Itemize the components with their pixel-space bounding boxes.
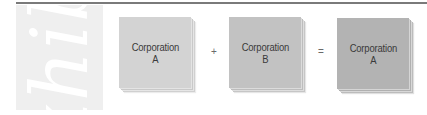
box-label-line2: A <box>131 53 178 65</box>
box-label: Corporation B <box>241 41 288 65</box>
box-label-line1: Corporation <box>241 41 288 53</box>
side-watermark-strip: Exhibit <box>16 5 103 110</box>
equals-operator: = <box>315 46 327 58</box>
exhibit-watermark-text: Exhibit <box>21 5 99 110</box>
box-label-line2: A <box>349 54 396 66</box>
box-label: Corporation A <box>349 42 396 66</box>
result-corporation-a-box: Corporation A <box>337 18 409 89</box>
corporation-b-box: Corporation B <box>229 17 301 88</box>
plus-operator: + <box>208 46 220 58</box>
box-label-line1: Corporation <box>131 41 178 53</box>
top-rule-divider <box>16 2 427 4</box>
box-label-line2: B <box>241 53 288 65</box>
box-label-line1: Corporation <box>349 42 396 54</box>
box-label: Corporation A <box>131 41 178 65</box>
corporation-a-box: Corporation A <box>119 17 191 88</box>
